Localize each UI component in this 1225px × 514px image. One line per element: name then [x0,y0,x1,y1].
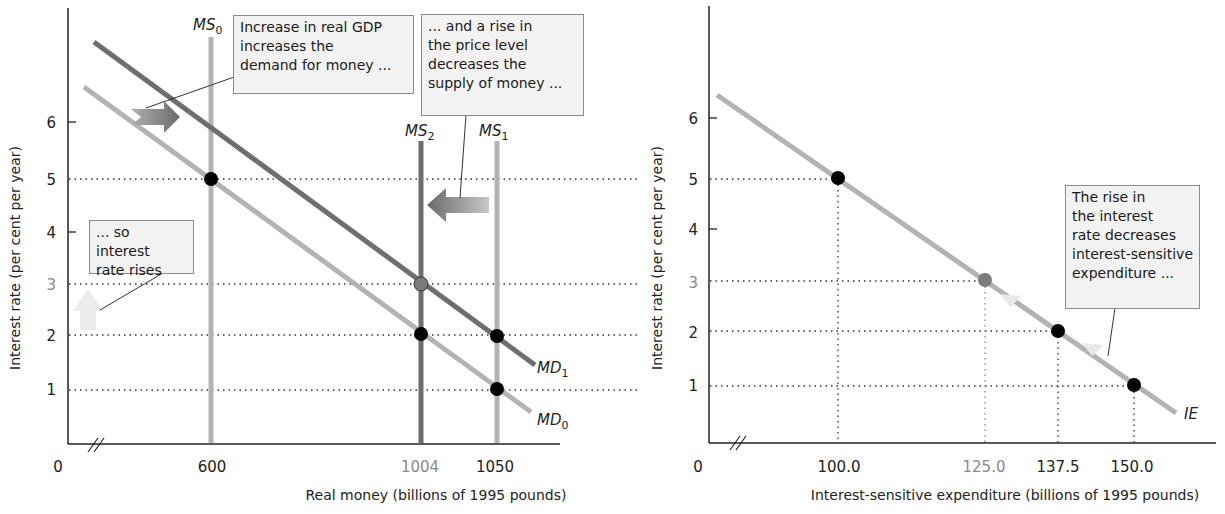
x-tick-1004: 1004 [401,458,439,476]
y-ticks-right [709,118,717,229]
svg-text:6: 6 [688,110,698,128]
note-gdp-demand: Increase in real GDP increases the deman… [233,15,414,94]
svg-text:100.0: 100.0 [818,458,861,476]
y-tick-labels: 1 2 3 4 5 6 [46,114,56,399]
ms0-label: MS0 [193,16,222,37]
ms1-label: MS1 [479,122,508,143]
figure: 1 2 3 4 5 6 0 600 1004 1050 Real money (… [0,0,1225,514]
y-tick-3: 3 [46,276,56,294]
point-100-5 [831,171,845,185]
svg-text:125.0: 125.0 [963,458,1006,476]
svg-text:2: 2 [688,324,698,342]
x-tick-0: 0 [53,458,63,476]
point-137-2 [1051,324,1065,338]
x-tick-1050: 1050 [476,458,514,476]
x-axis-title-right: Interest-sensitive expenditure (billions… [811,487,1199,503]
svg-text:1: 1 [688,377,698,395]
y-axis-title: Interest rate (per cent per year) [7,146,23,370]
point-1050-2 [490,329,504,343]
arrow-up-icon [73,289,103,330]
ms2-label: MS2 [405,122,434,143]
note-rate-rises: ... so interest rate rises [89,220,194,274]
axis-break-icon [88,438,104,452]
svg-text:150.0: 150.0 [1111,458,1154,476]
y-tick-5: 5 [46,171,56,189]
md1-label: MD1 [537,359,569,380]
y-axis-title-right: Interest rate (per cent per year) [649,146,665,370]
point-1050-1 [490,382,504,396]
md0-label: MD0 [537,411,569,432]
arrow-left-icon [427,188,489,222]
point-125-3 [978,273,992,287]
point-600-5 [204,172,218,186]
y-tick-2: 2 [46,327,56,345]
svg-text:3: 3 [688,274,698,292]
y-tick-6: 6 [46,114,56,132]
svg-text:4: 4 [688,221,698,239]
note-expenditure: The rise in the interest rate decreases … [1065,185,1200,309]
y-tick-4: 4 [46,224,56,242]
x-tick-labels: 0 600 1004 1050 [53,458,514,476]
note-price-supply: ... and a rise in the price level decrea… [421,14,584,116]
svg-text:0: 0 [693,458,703,476]
svg-text:137.5: 137.5 [1037,458,1080,476]
x-tick-labels-right: 0 100.0 125.0 137.5 150.0 [693,458,1153,476]
svg-text:5: 5 [688,171,698,189]
leader-line-right [1108,308,1115,356]
x-tick-600: 600 [198,458,227,476]
y-ticks [68,122,76,232]
point-1004-2 [414,327,428,341]
ie-label: IE [1184,405,1198,423]
x-axis-title: Real money (billions of 1995 pounds) [305,487,566,503]
point-150-1 [1127,378,1141,392]
y-tick-1: 1 [46,381,56,399]
y-tick-labels-right: 1 2 3 4 5 6 [688,110,698,395]
point-1004-3 [414,277,428,291]
